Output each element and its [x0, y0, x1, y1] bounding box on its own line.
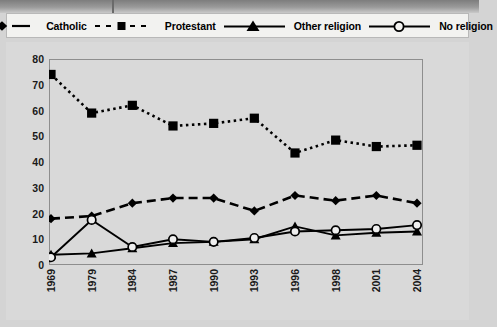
data-point [372, 142, 381, 151]
legend-item-protestant: Protestant [94, 19, 223, 33]
x-axis-tick: 2001 [369, 269, 383, 315]
x-axis-tick: 1993 [247, 269, 261, 315]
x-axis-tick: 1996 [288, 269, 302, 315]
data-point [250, 206, 259, 215]
data-point [49, 70, 56, 79]
data-point [49, 253, 55, 261]
x-axis-tick-label: 2004 [411, 269, 423, 292]
data-point [412, 141, 421, 150]
x-axis-tick-label: 1993 [248, 269, 260, 292]
legend-item-catholic: Catholic [0, 19, 94, 33]
x-axis-tick: 1984 [125, 269, 139, 315]
x-axis-tick: 1969 [44, 269, 58, 315]
plot-series-layer [49, 59, 423, 265]
x-axis-tick: 1979 [85, 269, 99, 315]
data-point [128, 199, 137, 208]
x-axis-tick-label: 1984 [126, 269, 138, 292]
legend-item-other-religion: Other religion [223, 19, 368, 33]
series-no-religion [49, 216, 421, 262]
data-point [87, 216, 95, 224]
legend-label-other-religion: Other religion [289, 20, 368, 32]
data-point [128, 243, 136, 251]
x-axis-tick: 1987 [166, 269, 180, 315]
data-point [209, 119, 218, 128]
data-point [412, 199, 421, 208]
y-axis-tick-label: 70 [14, 79, 44, 91]
legend-label-catholic: Catholic [41, 20, 94, 32]
y-axis-tick-label: 0 [14, 259, 44, 271]
data-point [209, 193, 218, 202]
x-axis-tick-label: 1987 [167, 269, 179, 292]
y-axis-tick-label: 80 [14, 53, 44, 65]
data-point [372, 191, 381, 200]
legend-swatch-protestant-icon [94, 19, 160, 33]
y-axis-tick-label: 10 [14, 233, 44, 245]
data-point [290, 191, 299, 200]
data-point [168, 121, 177, 130]
data-point [291, 227, 299, 235]
data-point [209, 238, 217, 246]
x-axis-tick-label: 1979 [86, 269, 98, 292]
data-point [168, 193, 177, 202]
x-axis-tick-label: 1996 [289, 269, 301, 292]
series-line [51, 74, 417, 153]
x-axis-tick: 2004 [410, 269, 424, 315]
data-point [128, 101, 137, 110]
data-point [169, 235, 177, 243]
legend-label-protestant: Protestant [160, 20, 223, 32]
data-point [331, 136, 340, 145]
series-catholic [49, 191, 422, 223]
data-point [290, 148, 299, 157]
chart-legend: Catholic Protestant Other religion No re… [6, 13, 469, 38]
data-point [87, 108, 96, 117]
legend-swatch-catholic-icon [0, 19, 41, 33]
series-protestant [49, 70, 422, 158]
data-point [250, 234, 258, 242]
data-point [49, 214, 56, 223]
y-axis-tick-label: 30 [14, 182, 44, 194]
data-point [372, 225, 380, 233]
x-axis-tick-label: 1990 [208, 269, 220, 292]
y-axis-tick-label: 20 [14, 208, 44, 220]
x-axis: 1969197919841987199019931996199820012004 [49, 269, 423, 317]
x-axis-tick: 1998 [329, 269, 343, 315]
y-axis-tick-label: 60 [14, 105, 44, 117]
series-line [51, 195, 417, 218]
x-axis-tick-label: 1969 [45, 269, 57, 292]
x-axis-tick: 1990 [207, 269, 221, 315]
legend-swatch-other-religion-icon [223, 19, 289, 33]
y-axis: 01020304050607080 [6, 59, 44, 265]
legend-item-no-religion: No religion [368, 19, 497, 33]
y-axis-tick-label: 50 [14, 130, 44, 142]
x-axis-tick-label: 2001 [370, 269, 382, 292]
data-point [413, 221, 421, 229]
chart-panel: 01020304050607080 1969197919841987199019… [6, 42, 469, 320]
legend-swatch-no-religion-icon [368, 19, 434, 33]
legend-label-no-religion: No religion [434, 20, 497, 32]
data-point [331, 196, 340, 205]
data-point [250, 114, 259, 123]
window-title-bar [0, 0, 479, 13]
x-axis-tick-label: 1998 [330, 269, 342, 292]
data-point [331, 226, 339, 234]
y-axis-tick-label: 40 [14, 156, 44, 168]
title-bar-notch [112, 0, 114, 13]
